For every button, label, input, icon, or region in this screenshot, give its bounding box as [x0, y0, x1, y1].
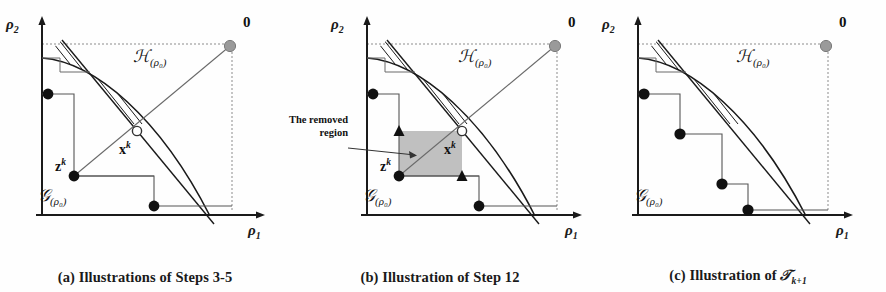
panel-b: ρ2 ρ1 ℋ(ρ₀) 𝒢(ρ₀) 0 zk xk The removed re…: [290, 0, 590, 292]
caption-prefix: (c) Illustration of: [669, 267, 780, 283]
open-circle-marker-xk: [457, 126, 466, 135]
black-dot-marker: [674, 128, 685, 139]
point-label-xk: xk: [444, 140, 456, 158]
grey-dot-marker-origin: [820, 40, 831, 51]
y-axis-arrow: [38, 16, 45, 25]
black-dot-marker: [638, 88, 649, 99]
black-dot-marker: [368, 89, 379, 100]
staircase-region-label: 𝒢(ρ₀): [363, 186, 391, 207]
caption-symbol: 𝒯: [780, 267, 791, 283]
origin-point-label: 0: [839, 14, 847, 31]
x-axis-arrow: [844, 211, 853, 218]
panel-a-caption: (a) Illustrations of Steps 3-5: [0, 269, 290, 286]
black-dot-marker: [716, 178, 727, 189]
panel-c: ρ2 ρ1 ℋ(ρ₀) 𝒢(ρ₀) 0 (c) Illustration of …: [590, 0, 886, 292]
staircase-region-label: 𝒢(ρ₀): [634, 186, 662, 207]
grey-dot-marker-origin: [224, 40, 235, 51]
black-dot-marker: [149, 201, 160, 212]
caption-subscript: k+1: [792, 276, 807, 286]
panel-b-caption: (b) Illustration of Step 12: [290, 269, 590, 286]
origin-point-label: 0: [568, 14, 576, 31]
grey-dot-marker-origin: [549, 40, 560, 51]
y-axis-label: ρ2: [331, 16, 344, 35]
x-axis-label: ρ1: [248, 222, 261, 241]
x-axis-label: ρ1: [565, 222, 578, 241]
removed-region-annotation: The removed region: [268, 113, 348, 139]
hatched-region-label: ℋ(ρ₀): [458, 46, 491, 68]
black-dot-marker-zk: [394, 171, 405, 182]
x-axis-label: ρ1: [836, 222, 849, 241]
black-dot-marker-zk: [69, 171, 80, 182]
y-axis-arrow: [634, 16, 641, 25]
x-axis-arrow: [256, 211, 265, 218]
origin-point-label: 0: [243, 14, 251, 31]
pareto-curve: [42, 58, 210, 216]
panel-a: ρ2 ρ1 ℋ(ρ₀) 𝒢(ρ₀) 0 zk xk (a) Illustrati…: [0, 0, 290, 292]
open-circle-marker-xk: [132, 126, 141, 135]
black-dot-marker: [474, 201, 485, 212]
x-axis-arrow: [573, 211, 582, 218]
triangle-marker-top-left: [394, 125, 405, 136]
y-axis-label: ρ2: [602, 16, 615, 35]
point-label-zk: zk: [55, 157, 66, 175]
point-label-xk: xk: [119, 140, 131, 158]
annotation-line-2: region: [268, 126, 348, 139]
y-axis-arrow: [363, 16, 370, 25]
staircase-region-label: 𝒢(ρ₀): [38, 186, 66, 207]
point-label-zk: zk: [380, 157, 391, 175]
black-dot-marker: [43, 89, 54, 100]
panel-c-caption: (c) Illustration of 𝒯k+1: [590, 267, 886, 286]
annotation-line-1: The removed: [268, 113, 348, 126]
black-dot-marker: [742, 204, 753, 215]
hatched-region-label: ℋ(ρ₀): [736, 46, 769, 68]
figure-container: ρ2 ρ1 ℋ(ρ₀) 𝒢(ρ₀) 0 zk xk (a) Illustrati…: [0, 0, 886, 292]
hatched-region-label: ℋ(ρ₀): [133, 46, 166, 68]
y-axis-label: ρ2: [6, 16, 19, 35]
